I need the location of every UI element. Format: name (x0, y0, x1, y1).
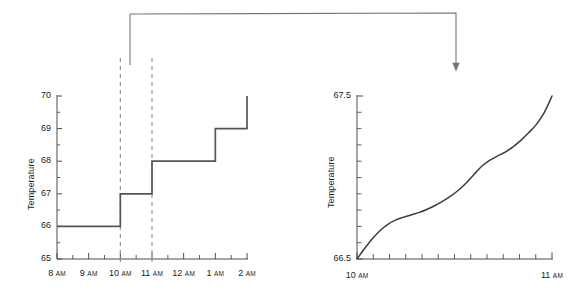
xtick-ampm: AM (553, 272, 563, 279)
right-detail-chart (0, 0, 579, 301)
right-chart-ytick-label: 67.5 (321, 90, 351, 100)
xtick-ampm: AM (358, 272, 368, 279)
figure-root: Temperature 706968676665 8 AM9 AM10 AM11… (0, 0, 579, 301)
right-chart-ytick-label: 66.5 (321, 253, 351, 263)
right-chart-xtick-label: 11 AM (530, 270, 574, 280)
right-chart-xtick-label: 10 AM (335, 270, 379, 280)
xtick-hour: 11 (541, 270, 550, 280)
right-chart-ylabel: Temperature (326, 156, 336, 208)
xtick-hour: 10 (346, 270, 356, 280)
